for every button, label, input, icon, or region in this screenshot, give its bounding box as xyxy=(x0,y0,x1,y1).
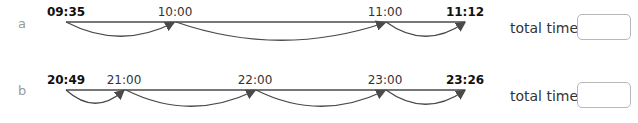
total-time-label: total time: xyxy=(510,88,583,104)
timeline-row-b: b 20:49 21:00 22:00 23:00 23:26 total ti… xyxy=(0,60,638,123)
timeline-row-a: a 09:35 10:00 11:00 11:12 total time: xyxy=(0,0,638,60)
total-time-input[interactable] xyxy=(577,14,631,40)
total-time-label: total time: xyxy=(510,20,583,36)
total-time-input[interactable] xyxy=(577,82,631,108)
